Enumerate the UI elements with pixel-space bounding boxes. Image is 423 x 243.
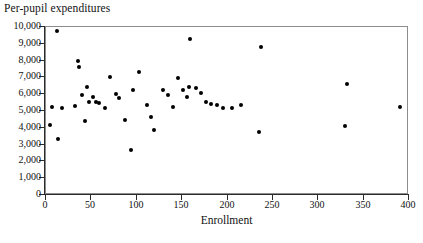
- y-tick-label-wrap: 8,000: [0, 55, 41, 65]
- data-point: [257, 130, 261, 134]
- y-tick-label-wrap: 6,000: [0, 88, 41, 98]
- y-tick-label-wrap: 4,000: [0, 122, 41, 132]
- data-point: [76, 59, 80, 63]
- x-tick-label: 300: [310, 200, 325, 210]
- data-point: [97, 101, 101, 105]
- x-axis-title: Enrollment: [45, 214, 408, 226]
- plot-area: [45, 26, 408, 194]
- data-point: [83, 119, 87, 123]
- data-point: [123, 118, 127, 122]
- data-point: [181, 88, 185, 92]
- y-tick-label: 8,000: [3, 55, 41, 65]
- x-tick-label: 50: [85, 200, 95, 210]
- y-axis-line: [44, 26, 45, 195]
- data-point: [204, 100, 208, 104]
- data-point: [73, 104, 77, 108]
- x-tick-label: 250: [265, 200, 280, 210]
- y-tick-label: 4,000: [3, 122, 41, 132]
- data-point: [131, 88, 135, 92]
- data-point: [149, 115, 153, 119]
- data-point: [85, 85, 89, 89]
- data-point: [166, 93, 170, 97]
- y-tick-label-wrap: 3,000: [0, 139, 41, 149]
- data-point: [87, 100, 91, 104]
- y-tick-label-wrap: 9,000: [0, 38, 41, 48]
- y-tick-label: 2,000: [3, 155, 41, 165]
- data-point: [103, 106, 107, 110]
- data-point: [60, 106, 64, 110]
- y-tick-label: 5,000: [3, 105, 41, 115]
- y-tick-label: 1,000: [3, 172, 41, 182]
- y-tick-label-wrap: 7,000: [0, 71, 41, 81]
- data-point: [230, 106, 234, 110]
- data-point: [176, 76, 180, 80]
- data-point: [56, 137, 60, 141]
- data-point: [259, 45, 263, 49]
- data-point: [221, 106, 225, 110]
- x-tick-label: 0: [43, 200, 48, 210]
- y-tick-label: 10,000: [3, 21, 41, 31]
- x-tick-label: 200: [220, 200, 235, 210]
- y-tick-label-wrap: 5,000: [0, 105, 41, 115]
- data-point: [161, 88, 165, 92]
- data-point: [77, 65, 81, 69]
- data-point: [55, 29, 59, 33]
- data-point: [80, 93, 84, 97]
- data-point: [239, 103, 243, 107]
- x-tick-label: 100: [129, 200, 144, 210]
- x-tick-label: 400: [401, 200, 416, 210]
- data-point: [152, 128, 156, 132]
- y-tick-label: 7,000: [3, 71, 41, 81]
- data-point: [398, 105, 402, 109]
- data-point: [129, 148, 133, 152]
- data-point: [117, 96, 121, 100]
- data-point: [50, 105, 54, 109]
- x-tick-label: 150: [174, 200, 189, 210]
- data-point: [108, 75, 112, 79]
- data-point: [343, 124, 347, 128]
- data-point: [145, 103, 149, 107]
- y-tick-label: 9,000: [3, 38, 41, 48]
- y-tick-label: 3,000: [3, 139, 41, 149]
- y-tick-label-wrap: 1,000: [0, 172, 41, 182]
- data-point: [48, 123, 52, 127]
- data-point: [185, 95, 189, 99]
- data-point: [215, 103, 219, 107]
- data-point: [91, 95, 95, 99]
- x-tick-label: 350: [356, 200, 371, 210]
- data-point: [114, 92, 118, 96]
- chart-title: Per-pupil expenditures: [4, 2, 110, 14]
- data-point: [137, 70, 141, 74]
- y-tick-label-wrap: 2,000: [0, 155, 41, 165]
- data-point: [171, 105, 175, 109]
- data-point: [345, 82, 349, 86]
- scatter-plot-figure: Per-pupil expenditures 01,0002,0003,0004…: [0, 0, 423, 243]
- y-tick-label: 6,000: [3, 88, 41, 98]
- data-point: [209, 102, 213, 106]
- y-tick-label-wrap: 0: [0, 189, 41, 199]
- data-point: [187, 85, 191, 89]
- y-tick-label: 0: [3, 189, 41, 199]
- data-point: [188, 37, 192, 41]
- y-tick-label-wrap: 10,000: [0, 21, 41, 31]
- data-point: [194, 86, 198, 90]
- data-point: [199, 91, 203, 95]
